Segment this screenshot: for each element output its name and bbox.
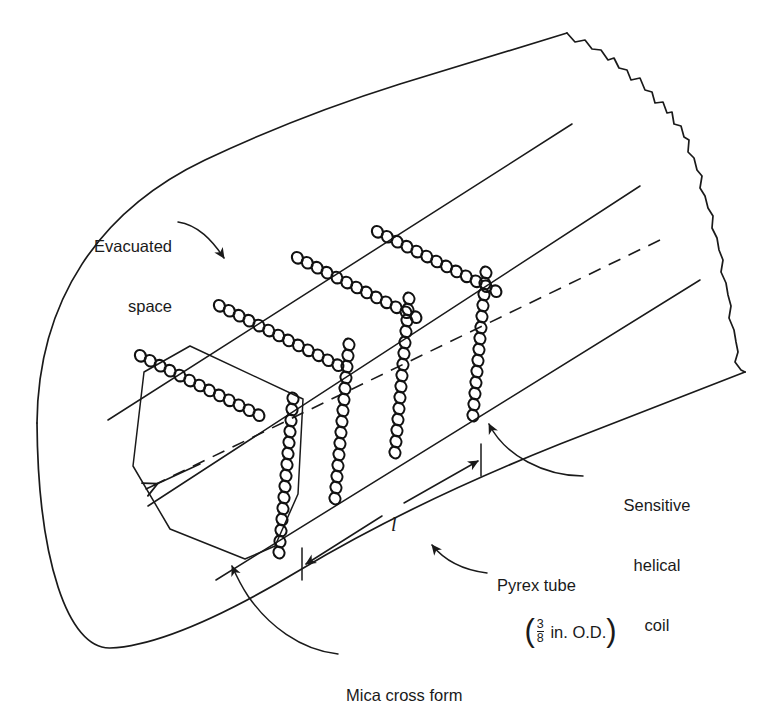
leader-pyrex-curve xyxy=(432,545,487,573)
coil-vertical-3 xyxy=(390,293,415,459)
axis-arrowhead xyxy=(146,464,200,489)
coil-diagonal-4 xyxy=(369,214,503,309)
tube-surface-edges xyxy=(108,124,700,580)
tube-edge-lower-front xyxy=(216,280,700,580)
tube-top-edge xyxy=(37,33,567,423)
coil-vertical-4 xyxy=(468,267,492,422)
coil-diagonal-2 xyxy=(211,288,345,383)
coil-vertical-1 xyxy=(274,393,299,559)
leader-evacuated-space xyxy=(178,222,224,258)
leader-pyrex-tube xyxy=(432,545,487,573)
pyrex-tube-outline xyxy=(37,33,745,648)
dimension-arrow-right xyxy=(404,461,478,503)
tube-center-axis xyxy=(146,240,660,489)
tube-break-edge xyxy=(567,33,745,372)
axis-dashed-line xyxy=(152,240,660,486)
tube-bottom-edge xyxy=(37,372,745,648)
length-dimension-line xyxy=(302,444,481,580)
coil-diagonal-1 xyxy=(132,338,266,433)
coil-diagonal-3 xyxy=(289,240,423,335)
dimension-arrow-left xyxy=(306,516,382,564)
leader-evacuated-space-curve xyxy=(178,222,224,258)
sensitive-helical-coil xyxy=(132,214,503,559)
